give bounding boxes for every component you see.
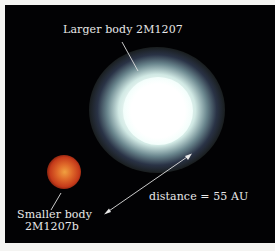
distance-arrow (104, 154, 192, 215)
smaller-body-label-line2: 2M1207b (17, 221, 87, 233)
distance-label: distance = 55 AU (149, 191, 248, 203)
larger-body-leader-line (122, 42, 138, 71)
smaller-body-label: Smaller body 2M1207b (17, 209, 87, 233)
arrowhead-icon (104, 209, 111, 215)
larger-body-label: Larger body 2M1207 (63, 24, 183, 36)
arrowhead-icon (185, 154, 192, 161)
